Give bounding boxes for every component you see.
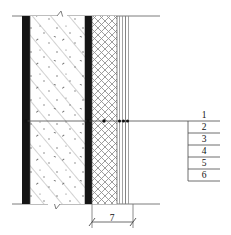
dimension-label-7: 7	[105, 214, 119, 224]
layer-insulation	[92, 16, 117, 204]
legend-number-3: 3	[197, 135, 211, 145]
leader-dot-4	[118, 120, 121, 123]
legend-number-2: 2	[197, 123, 211, 133]
layer-outer-solid	[22, 16, 30, 204]
layer-reinforced-concrete	[30, 16, 85, 204]
leader-dot-5	[122, 120, 125, 123]
legend-number-4: 4	[197, 147, 211, 157]
leader-dot-6	[126, 120, 129, 123]
layer-inner-solid	[85, 16, 92, 204]
legend-number-5: 5	[197, 159, 211, 169]
leader-dot-3	[102, 119, 105, 122]
leader-dot-2	[86, 119, 89, 122]
legend-number-6: 6	[197, 171, 211, 181]
legend-number-1: 1	[197, 111, 211, 121]
leader-dot-1	[24, 119, 27, 122]
